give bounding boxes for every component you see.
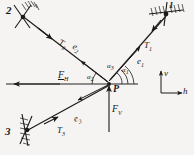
force-label-FV: FV bbox=[112, 104, 122, 116]
node-label-1: 1 bbox=[169, 1, 174, 10]
anchor-support-2 bbox=[14, 1, 39, 28]
tension-label-3: T3 bbox=[57, 126, 65, 137]
tension-vector-3 bbox=[78, 85, 108, 100]
angle-label-alpha2: α2 bbox=[87, 74, 94, 82]
force-diagram: 2 1 3 P T2 e2 T1 e1 T3 e3 α1 α3 α2 FH FV… bbox=[0, 0, 194, 155]
force-label-FH: FH bbox=[58, 70, 68, 82]
node-label-2: 2 bbox=[6, 5, 12, 16]
axis-label-v: v bbox=[164, 69, 168, 78]
junction-point-label: P bbox=[113, 84, 119, 94]
unit-vector-label-1: e1 bbox=[137, 57, 144, 68]
angle-label-alpha1: α1 bbox=[122, 67, 129, 75]
rope-1-direction-arrow bbox=[152, 20, 161, 31]
tension-label-1: T1 bbox=[144, 41, 152, 52]
anchor-support-1 bbox=[149, 2, 184, 26]
node-label-3: 3 bbox=[5, 126, 11, 137]
tension-vector-2 bbox=[81, 61, 108, 82]
junction-point-marker bbox=[107, 82, 111, 86]
rope-2-direction-arrow bbox=[38, 28, 52, 39]
angle-label-alpha3: α3 bbox=[107, 63, 114, 71]
rope-3-line bbox=[28, 86, 108, 130]
axis-label-h: h bbox=[183, 87, 188, 96]
anchor-support-3 bbox=[20, 114, 32, 146]
